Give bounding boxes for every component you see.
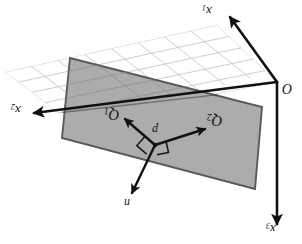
vector-q2-label: Q2 [207, 113, 223, 128]
axis-x1-label: x1 [202, 5, 212, 18]
point-p-label: p [152, 124, 158, 136]
point-p-marker [153, 143, 157, 147]
axis-x3-label: x3 [266, 223, 276, 236]
geometry-figure [0, 0, 302, 244]
normal-vector-label: n [124, 197, 130, 209]
vector-q1-label: Q1 [104, 107, 120, 122]
origin-label: O [282, 81, 292, 95]
axis-x2-label: x2 [11, 104, 21, 117]
